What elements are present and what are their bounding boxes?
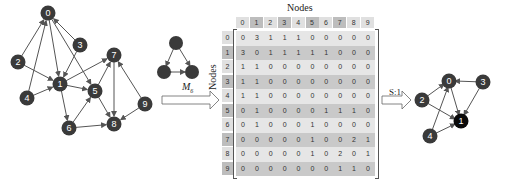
matrix-cell: 0 <box>333 118 347 133</box>
column-header: 2 <box>264 17 277 28</box>
matrix-cell: 1 <box>292 31 306 46</box>
matrix-cell: 1 <box>264 46 278 61</box>
matrix-cell: 0 <box>278 104 292 119</box>
edge <box>54 19 75 40</box>
node-label: 3 <box>77 40 82 50</box>
matrix-cell: 0 <box>278 162 292 177</box>
matrix-cell: 1 <box>250 60 264 75</box>
row-header: 8 <box>222 147 233 160</box>
matrix-cell: 0 <box>292 60 306 75</box>
matrix-row: 1100000000 <box>236 75 375 90</box>
matrix-cell: 0 <box>292 147 306 162</box>
node-label: 9 <box>142 99 147 109</box>
matrix-cell: 1 <box>250 118 264 133</box>
matrix-row: 0100010000 <box>236 118 375 133</box>
node-label: 0 <box>446 76 451 86</box>
edge <box>67 85 87 89</box>
matrix-cell: 0 <box>250 147 264 162</box>
matrix-cell: 0 <box>361 89 375 104</box>
matrix-cell: 0 <box>292 104 306 119</box>
edge <box>73 98 90 123</box>
step-label: S:1 <box>389 87 401 97</box>
matrix-cell: 0 <box>319 60 333 75</box>
matrix-cell: 1 <box>305 147 319 162</box>
matrix-row: 1100000000 <box>236 60 375 75</box>
matrix-cell: 1 <box>305 46 319 61</box>
matrix-cell: 1 <box>305 118 319 133</box>
matrix-cell: 1 <box>250 89 264 104</box>
node-label: 1 <box>57 79 62 89</box>
matrix-cell: 0 <box>278 147 292 162</box>
matrix-cell: 1 <box>347 162 361 177</box>
column-header: 5 <box>306 17 319 28</box>
edge <box>52 19 91 84</box>
column-header: 4 <box>292 17 305 28</box>
matrix-cell: 0 <box>264 147 278 162</box>
matrix-cell: 0 <box>361 75 375 90</box>
matrix-cell: 1 <box>333 104 347 119</box>
matrix-cell: 1 <box>250 104 264 119</box>
matrix-cell: 0 <box>264 162 278 177</box>
matrix-cell: 0 <box>250 133 264 148</box>
row-header: 5 <box>222 104 233 117</box>
matrix-cell: 0 <box>292 89 306 104</box>
matrix-cell: 0 <box>292 118 306 133</box>
matrix-cell: 0 <box>347 118 361 133</box>
matrix-cell: 0 <box>305 31 319 46</box>
matrix-cell: 0 <box>319 75 333 90</box>
column-header: 8 <box>347 17 360 28</box>
matrix-cell: 0 <box>361 31 375 46</box>
matrix-cell: 0 <box>347 31 361 46</box>
matrix-cell: 0 <box>319 118 333 133</box>
matrix-cell: 0 <box>278 118 292 133</box>
matrix-cell: 0 <box>236 133 250 148</box>
row-header: 0 <box>222 31 233 44</box>
edge <box>24 65 53 80</box>
matrix-ylabel: Nodes <box>207 64 218 90</box>
matrix-row: 0311100000 <box>236 31 375 46</box>
matrix-row: 0100001110 <box>236 104 375 119</box>
node-label: 3 <box>480 77 485 87</box>
matrix-cell: 0 <box>319 147 333 162</box>
row-header: 4 <box>222 89 233 102</box>
matrix-cell: 0 <box>305 104 319 119</box>
matrix-cell: 1 <box>292 46 306 61</box>
matrix-cell: 3 <box>250 31 264 46</box>
matrix-row: 1100000000 <box>236 89 375 104</box>
matrix-cell: 0 <box>305 89 319 104</box>
motif-m6 <box>157 36 199 79</box>
matrix-cell: 0 <box>347 147 361 162</box>
matrix-cell: 0 <box>264 118 278 133</box>
matrix-cell: 0 <box>292 75 306 90</box>
matrix-cell: 1 <box>333 162 347 177</box>
node-label: 7 <box>111 50 116 60</box>
matrix-cell: 1 <box>305 133 319 148</box>
matrix-cell: 0 <box>305 75 319 90</box>
matrix-cell: 0 <box>333 89 347 104</box>
matrix-cell: 1 <box>361 133 375 148</box>
matrix-cell: 1 <box>236 60 250 75</box>
left-graph-edges <box>22 19 142 128</box>
column-header: 1 <box>250 17 263 28</box>
matrix-cell: 0 <box>236 162 250 177</box>
matrix-cell: 0 <box>333 60 347 75</box>
node-label: 4 <box>427 131 432 141</box>
matrix-cell: 0 <box>236 104 250 119</box>
matrix-cell: 0 <box>361 162 375 177</box>
matrix-bracket-right <box>375 29 379 179</box>
matrix-cell: 1 <box>278 46 292 61</box>
matrix-cell: 0 <box>264 60 278 75</box>
matrix-row: 0000000110 <box>236 162 375 177</box>
matrix-cell: 0 <box>278 60 292 75</box>
row-header: 9 <box>222 162 233 175</box>
column-header: 3 <box>278 17 291 28</box>
motif-label: M6 <box>182 81 193 94</box>
matrix-cell: 1 <box>319 46 333 61</box>
edge <box>98 62 110 85</box>
edge <box>98 97 110 117</box>
matrix-cell: 0 <box>319 162 333 177</box>
matrix-cell: 0 <box>264 89 278 104</box>
matrix-cell: 0 <box>264 75 278 90</box>
matrix-cell: 1 <box>250 75 264 90</box>
right-graph <box>422 81 483 136</box>
